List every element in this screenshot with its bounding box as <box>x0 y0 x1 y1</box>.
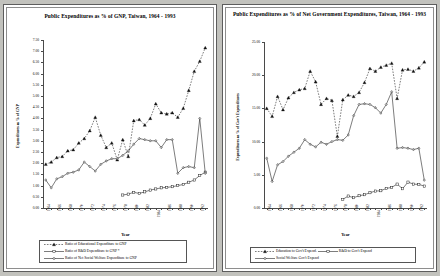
legend-label: Education to Gov't Expend. <box>276 248 317 255</box>
y-tick-label: 1.50 <box>27 172 39 176</box>
data-point <box>265 107 268 110</box>
data-point <box>193 70 196 73</box>
x-tick <box>51 208 52 210</box>
y-tick-label: 4.00 <box>27 116 39 120</box>
legend-marker <box>254 255 276 262</box>
series-layer <box>43 40 208 208</box>
y-tick-label: 7.50 <box>27 38 39 42</box>
y-axis-title-govt: Expenditures as % of Gov't Expenditures <box>236 44 240 210</box>
data-point <box>55 156 58 159</box>
data-point <box>188 165 190 168</box>
x-tick <box>381 208 382 210</box>
y-tick-label: 6.00 <box>27 72 39 76</box>
y-tick-label: 4.50 <box>27 105 39 109</box>
data-point <box>193 166 195 169</box>
y-tick <box>41 208 43 209</box>
legend-gnp: Ratio of Educational Expenditure to GNPR… <box>39 240 187 263</box>
series-line <box>267 92 425 182</box>
data-point <box>149 117 152 120</box>
data-point <box>144 191 146 193</box>
series-layer <box>264 42 427 208</box>
data-point <box>271 180 273 183</box>
data-point <box>418 147 420 150</box>
data-point <box>407 147 409 150</box>
y-tick-label: 0.50 <box>27 195 39 199</box>
chart-title-gnp: Public Expenditures as % of GNP, Taiwan,… <box>7 13 213 20</box>
x-tick <box>183 208 184 210</box>
data-point <box>67 172 69 175</box>
data-point <box>133 191 135 193</box>
series-line <box>123 172 206 195</box>
y-tick-label: 15.00 <box>247 106 260 110</box>
data-point <box>132 119 135 122</box>
plot-area-gnp: 0.000.501.001.502.002.503.003.504.004.50… <box>43 40 208 208</box>
y-tick <box>262 208 264 209</box>
data-point <box>347 94 350 97</box>
x-tick <box>321 208 322 210</box>
legend-row: Social Welfare Gov't Expend <box>251 255 415 262</box>
data-point <box>182 107 185 110</box>
x-tick <box>413 208 414 210</box>
data-point <box>171 111 174 114</box>
data-point <box>50 161 53 164</box>
data-point <box>61 155 64 158</box>
x-tick <box>62 208 63 210</box>
data-point <box>401 188 403 190</box>
y-tick-label: 3.50 <box>27 128 39 132</box>
data-point <box>144 138 146 141</box>
x-tick <box>326 208 327 210</box>
x-tick <box>172 208 173 210</box>
data-point <box>276 164 278 167</box>
x-tick <box>205 208 206 210</box>
chart-frame-govt: Public Expenditures as % of Net Governme… <box>225 7 434 269</box>
y-tick-label: 5.00 <box>247 173 260 177</box>
x-tick <box>359 208 360 210</box>
data-point <box>198 60 201 63</box>
data-point <box>374 190 376 192</box>
data-point <box>363 102 365 105</box>
x-tick <box>161 208 162 210</box>
x-tick <box>424 208 425 210</box>
data-point <box>358 91 361 94</box>
y-tick-label: 6.50 <box>27 60 39 64</box>
data-point <box>166 186 168 188</box>
data-point <box>401 68 404 71</box>
legend-label: Ratio of R&D Expenditure to GNP * <box>65 248 120 255</box>
data-point <box>171 138 173 141</box>
x-tick-label: 1984 <box>377 210 381 217</box>
data-point <box>363 81 366 84</box>
y-axis-title-gnp: Expenditures as % of GNP <box>16 42 20 210</box>
data-point <box>369 192 371 194</box>
data-point <box>276 95 279 98</box>
data-point <box>199 117 201 120</box>
x-tick <box>370 208 371 210</box>
y-tick-label: 5.00 <box>27 94 39 98</box>
data-point <box>336 135 339 138</box>
legend-row: Ratio of R&D Expenditure to GNP * <box>40 248 186 255</box>
figure-page: Public Expenditures as % of GNP, Taiwan,… <box>0 0 440 276</box>
chart-panel-govt: Public Expenditures as % of Net Governme… <box>222 4 437 272</box>
data-point <box>187 89 190 92</box>
data-point <box>199 174 201 176</box>
series-line <box>46 48 206 164</box>
series-line <box>343 182 425 199</box>
x-tick <box>128 208 129 210</box>
data-point <box>204 46 207 49</box>
y-tick-label: 0.00 <box>247 206 260 210</box>
x-tick <box>392 208 393 210</box>
data-point <box>401 146 403 149</box>
y-tick-label: 10.00 <box>247 140 260 144</box>
y-tick-label: 0.00 <box>27 206 39 210</box>
x-tick <box>337 208 338 210</box>
x-tick-label: 1984 <box>157 210 161 217</box>
data-point <box>105 160 107 163</box>
legend-label: Ratio of Educational Expenditure to GNP <box>65 241 127 248</box>
data-point <box>391 186 393 188</box>
data-point <box>177 184 179 186</box>
data-point <box>171 186 173 188</box>
chart-frame-gnp: Public Expenditures as % of GNP, Taiwan,… <box>6 7 214 269</box>
data-point <box>407 181 409 183</box>
legend-label: Ratio of Net Social Welfare Expenditure … <box>65 255 137 262</box>
data-point <box>380 190 382 192</box>
data-point <box>396 183 398 185</box>
